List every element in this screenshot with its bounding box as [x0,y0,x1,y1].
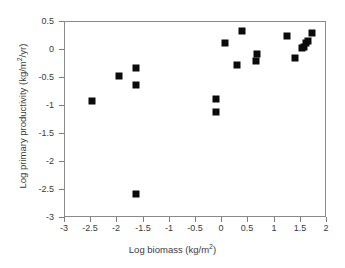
data-point [212,109,219,116]
x-axis-tick-label: 2 [311,224,341,233]
superscript: 2 [209,243,213,250]
x-axis-tick [221,217,222,222]
data-points-layer [65,22,325,216]
x-axis-tick [90,217,91,222]
data-point [212,96,219,103]
x-axis-tick [326,217,327,222]
data-point [309,30,316,37]
y-axis-tick-label: -2.5 [38,185,54,194]
x-axis-tick [247,217,248,222]
x-axis-label: Log biomass (kg/m2) [0,243,345,255]
data-point [238,27,245,34]
x-axis-tick-label: 0.5 [232,224,262,233]
data-point [221,39,228,46]
data-point [132,81,139,88]
data-point [254,51,261,58]
x-axis-tick [169,217,170,222]
y-axis-label: Log primary productivity (kg/m2/yr) [16,16,28,216]
y-axis-tick-label: -3 [46,213,54,222]
x-axis-tick [116,217,117,222]
data-point [284,33,291,40]
y-axis-tick-label: 0.5 [41,17,54,26]
x-axis-tick [274,217,275,222]
data-point [253,58,260,65]
data-point [304,38,311,45]
y-axis-tick-label: -1 [46,101,54,110]
scatter-chart-figure: 0.50-0.5-1-1.5-2-2.5-3 -3-2.5-2-1.5-1-0.… [0,0,345,268]
x-axis-tick [300,217,301,222]
data-point [132,190,139,197]
data-point [132,64,139,71]
x-axis-tick [195,217,196,222]
plot-area [64,21,326,217]
data-point [116,72,123,79]
y-axis-tick-label: -2 [46,157,54,166]
x-axis-tick [64,217,65,222]
y-axis-tick-label: -1.5 [38,129,54,138]
x-axis-tick [143,217,144,222]
y-axis-tick-label: 0 [49,45,54,54]
data-point [88,97,95,104]
superscript: 2 [16,57,23,61]
x-axis-tick-label: -2 [101,224,131,233]
data-point [291,54,298,61]
data-point [233,62,240,69]
y-axis-tick-label: -0.5 [38,73,54,82]
